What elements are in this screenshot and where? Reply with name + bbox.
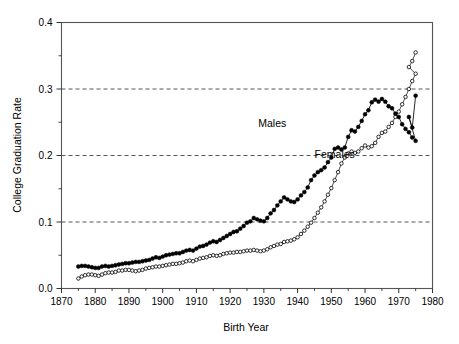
data-point	[239, 250, 243, 254]
data-point	[407, 65, 411, 69]
data-point	[384, 130, 388, 134]
series-males	[76, 94, 417, 270]
data-point	[383, 100, 387, 104]
data-point	[410, 126, 414, 130]
data-point	[319, 206, 323, 210]
data-point	[110, 271, 114, 275]
data-point	[147, 266, 151, 270]
data-point	[366, 108, 370, 112]
x-tick-label: 1970	[388, 296, 411, 307]
data-point	[134, 269, 138, 273]
data-point	[178, 261, 182, 265]
data-point	[326, 193, 330, 197]
series-annotations: MalesFemales	[258, 117, 355, 160]
data-point	[242, 250, 246, 254]
data-point	[131, 269, 135, 273]
data-point	[252, 248, 256, 252]
data-point	[400, 103, 404, 107]
data-point	[353, 130, 357, 134]
data-point	[249, 249, 253, 253]
data-point	[404, 127, 408, 131]
data-point	[83, 273, 87, 277]
data-point	[373, 141, 377, 145]
data-point	[161, 264, 165, 268]
data-point	[414, 94, 418, 98]
data-point	[303, 229, 307, 233]
data-point	[255, 249, 259, 253]
data-point	[144, 267, 148, 271]
data-point	[340, 162, 344, 166]
annotation-males: Males	[258, 117, 286, 129]
x-tick-label: 1870	[50, 296, 73, 307]
data-point	[158, 265, 162, 269]
data-point	[100, 273, 104, 277]
data-point	[330, 186, 334, 190]
data-point	[377, 100, 381, 104]
data-point	[282, 240, 286, 244]
series-line	[78, 52, 415, 278]
data-point	[390, 121, 394, 125]
data-point	[326, 160, 330, 164]
college-graduation-rate-line-chart: 1870188018901900191019201930194019501960…	[0, 0, 459, 344]
data-point	[306, 225, 310, 229]
data-point	[299, 193, 303, 197]
data-point	[410, 136, 414, 140]
x-tick-label: 1920	[219, 296, 242, 307]
data-point	[393, 112, 397, 116]
data-point	[357, 150, 361, 154]
x-tick-label: 1910	[185, 296, 208, 307]
data-point	[198, 257, 202, 261]
data-point	[411, 59, 415, 63]
data-point	[259, 250, 263, 254]
data-point	[407, 115, 411, 119]
data-series	[76, 51, 417, 281]
series-line	[78, 96, 415, 268]
annotation-females: Females	[315, 148, 355, 160]
data-point	[323, 166, 327, 170]
data-point	[377, 135, 381, 139]
data-point	[90, 273, 94, 277]
x-tick-label: 1880	[84, 296, 107, 307]
data-point	[299, 232, 303, 236]
data-point	[275, 203, 279, 207]
data-point	[188, 259, 192, 263]
data-point	[215, 254, 219, 258]
data-point	[232, 251, 236, 255]
data-point	[360, 146, 364, 150]
data-point	[276, 243, 280, 247]
data-point	[309, 221, 313, 225]
data-point	[235, 229, 239, 233]
x-tick-label: 1900	[152, 296, 175, 307]
data-point	[387, 125, 391, 129]
data-point	[151, 265, 155, 269]
x-tick-label: 1980	[421, 296, 444, 307]
data-point	[292, 200, 296, 204]
data-point	[279, 199, 283, 203]
series-females	[77, 51, 418, 281]
data-point	[93, 273, 97, 277]
data-point	[380, 97, 384, 101]
data-point	[292, 238, 296, 242]
data-point	[272, 208, 276, 212]
y-axis-tick-labels: 0.00.10.20.30.4	[39, 17, 53, 294]
data-point	[370, 100, 374, 104]
data-point	[397, 110, 401, 114]
data-point	[363, 112, 367, 116]
y-tick-label: 0.3	[39, 84, 53, 95]
data-point	[265, 248, 269, 252]
data-point	[313, 174, 317, 178]
gridlines	[62, 89, 433, 222]
data-point	[400, 122, 404, 126]
data-point	[363, 144, 367, 148]
x-tick-label: 1890	[118, 296, 141, 307]
y-axis-title: College Graduation Rate	[11, 97, 23, 213]
data-point	[370, 144, 374, 148]
data-point	[222, 252, 226, 256]
data-point	[262, 249, 266, 253]
data-point	[114, 270, 118, 274]
data-point	[404, 95, 408, 99]
data-point	[137, 269, 141, 273]
data-point	[120, 269, 124, 273]
data-point	[333, 178, 337, 182]
data-point	[390, 106, 394, 110]
